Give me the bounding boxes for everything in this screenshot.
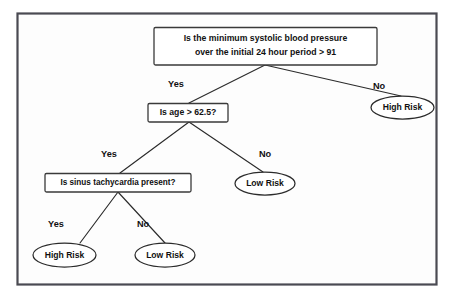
node-root-line2: over the initial 24 hour period > 91 [195, 47, 336, 57]
node-root-line1: Is the minimum systolic blood pressure [184, 33, 348, 43]
node-age-label: Is age > 62.5? [160, 107, 217, 117]
node-sinus[interactable]: Is sinus tachycardia present? [45, 174, 191, 193]
leaf-low-risk-mid-label: Low Risk [246, 178, 284, 188]
leaf-high-risk-right-label: High Risk [383, 102, 423, 112]
leaf-high-risk-bottom-label: High Risk [45, 250, 85, 260]
leaf-low-risk-mid[interactable]: Low Risk [235, 172, 295, 195]
decision-tree-canvas: Yes No Yes No Yes No Is the minimum syst… [0, 0, 454, 300]
node-sinus-label: Is sinus tachycardia present? [60, 178, 175, 187]
leaf-high-risk-right[interactable]: High Risk [371, 96, 434, 119]
leaf-low-risk-bottom-label: Low Risk [146, 250, 184, 260]
branch-label-age-no: No [259, 149, 272, 159]
branch-label-age-yes: Yes [101, 149, 117, 159]
branch-label-sinus-no: No [137, 219, 150, 229]
branch-label-root-yes: Yes [168, 79, 184, 89]
branch-label-root-no: No [373, 81, 386, 91]
branch-label-sinus-yes: Yes [48, 219, 64, 229]
decision-tree-figure: Yes No Yes No Yes No Is the minimum syst… [0, 0, 454, 300]
node-root[interactable]: Is the minimum systolic blood pressure o… [154, 28, 377, 66]
leaf-low-risk-bottom[interactable]: Low Risk [135, 243, 195, 267]
leaf-high-risk-bottom[interactable]: High Risk [33, 243, 96, 267]
node-age[interactable]: Is age > 62.5? [148, 104, 228, 123]
